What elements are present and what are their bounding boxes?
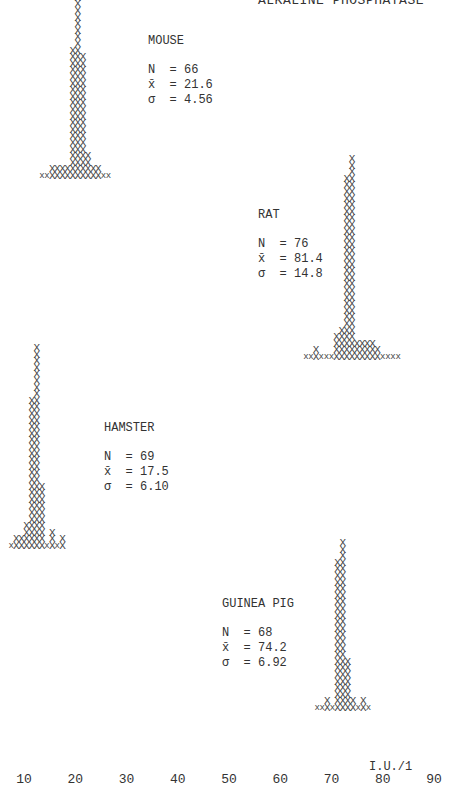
- histogram-column: x: [394, 350, 402, 363]
- data-mark-x: X: [58, 534, 66, 545]
- data-mark-x: x: [364, 703, 372, 714]
- species-name: HAMSTER: [104, 421, 169, 436]
- stats-label-hamster: HAMSTERN = 69x̄ = 17.5σ = 6.10: [104, 421, 169, 495]
- data-mark-x: X: [38, 482, 46, 493]
- stat-mean: x̄ = 21.6: [148, 78, 213, 93]
- species-name: MOUSE: [148, 34, 213, 49]
- x-tick-label: 10: [16, 772, 32, 787]
- x-tick-label: 70: [324, 772, 340, 787]
- histogram-column: XX: [58, 533, 66, 552]
- stat-n: N = 76: [258, 237, 323, 252]
- data-mark-x: x: [394, 352, 402, 363]
- x-tick-label: 60: [272, 772, 288, 787]
- species-name: RAT: [258, 208, 323, 223]
- histogram-column: XXXXXXXXXXXXXXXXXXXXXXXXXXXXXXX: [348, 152, 356, 363]
- stat-mean: x̄ = 17.5: [104, 465, 169, 480]
- x-tick-label: 40: [170, 772, 186, 787]
- stat-sd: σ = 6.92: [222, 656, 294, 671]
- species-name: GUINEA PIG: [222, 597, 294, 612]
- data-mark-x: X: [84, 151, 92, 162]
- stat-mean: x̄ = 81.4: [258, 252, 323, 267]
- data-mark-x: X: [339, 538, 347, 549]
- data-mark-x: X: [74, 0, 82, 4]
- stat-sd: σ = 14.8: [258, 267, 323, 282]
- stats-label-mouse: MOUSEN = 66x̄ = 21.6σ = 4.56: [148, 34, 213, 108]
- stat-mean: x̄ = 74.2: [222, 641, 294, 656]
- stat-sd: σ = 6.10: [104, 480, 169, 495]
- stat-n: N = 66: [148, 63, 213, 78]
- stat-n: N = 68: [222, 626, 294, 641]
- data-mark-x: X: [33, 343, 41, 354]
- data-mark-x: X: [48, 528, 56, 539]
- stats-label-guinea-pig: GUINEA PIGN = 68x̄ = 74.2σ = 6.92: [222, 597, 294, 671]
- histogram-column: x: [364, 701, 372, 714]
- data-mark-x: X: [79, 52, 87, 63]
- stat-n: N = 69: [104, 450, 169, 465]
- x-tick-label: 20: [67, 772, 83, 787]
- x-tick-label: 80: [375, 772, 391, 787]
- x-tick-label: 50: [221, 772, 237, 787]
- x-tick-label: 90: [426, 772, 442, 787]
- data-mark-x: X: [348, 154, 356, 165]
- x-tick-label: 30: [119, 772, 135, 787]
- data-mark-x: X: [344, 657, 352, 668]
- histogram-column: x: [105, 169, 113, 182]
- chart-title: ALKALINE PHOSPHATASE: [258, 0, 424, 8]
- stat-sd: σ = 4.56: [148, 93, 213, 108]
- data-mark-x: x: [105, 171, 113, 182]
- x-axis: 102030405060708090: [0, 772, 450, 788]
- stats-label-rat: RATN = 76x̄ = 81.4σ = 14.8: [258, 208, 323, 282]
